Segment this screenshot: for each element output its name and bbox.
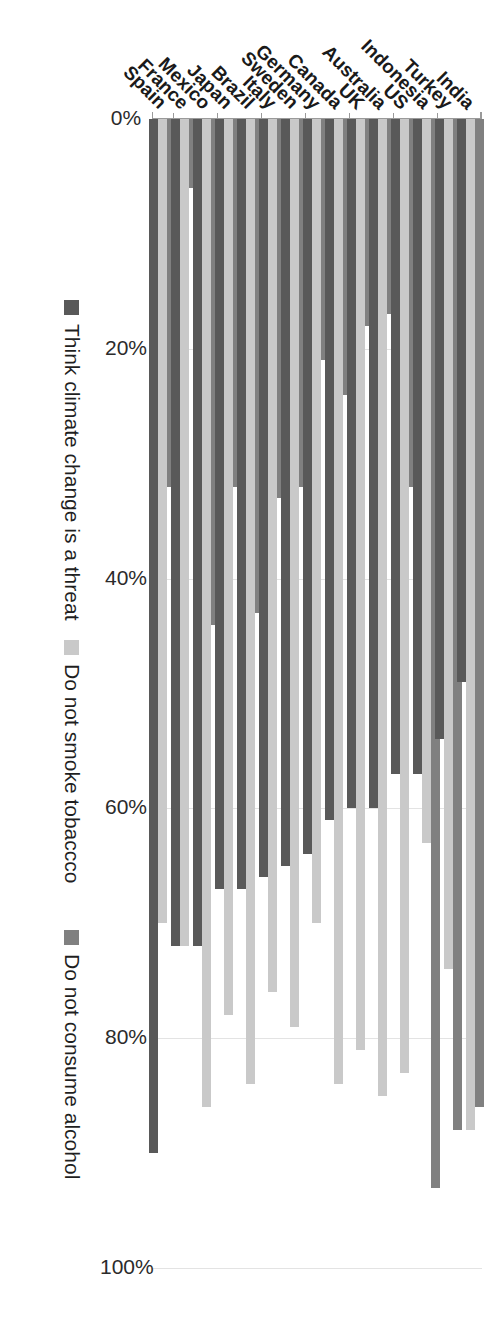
bar-mexico-series-1 xyxy=(203,119,212,1107)
bar-brazil-series-0 xyxy=(238,119,247,889)
bar-canada-series-0 xyxy=(326,119,335,820)
bar-australia-series-0 xyxy=(370,119,379,808)
bar-us-series-0 xyxy=(392,119,401,774)
bar-india-series-2 xyxy=(476,119,485,1107)
rotated-chart-wrapper: SpainFranceMexicoJapanBrazilItalySwedenG… xyxy=(0,0,496,1339)
series-2-swatch xyxy=(65,930,80,945)
bar-turkey-series-1 xyxy=(445,119,454,969)
plot-area xyxy=(152,118,482,1267)
gridline xyxy=(152,1268,482,1269)
bar-japan-series-1 xyxy=(225,119,234,1015)
bar-italy-series-1 xyxy=(269,119,278,992)
bar-canada-series-1 xyxy=(335,119,344,1084)
bar-indonesia-series-1 xyxy=(423,119,432,843)
bar-spain-series-0 xyxy=(150,119,159,1153)
bar-sweden-series-1 xyxy=(291,119,300,1027)
bar-us-series-1 xyxy=(401,119,410,1073)
bar-uk-series-1 xyxy=(357,119,366,1050)
legend-item-0[interactable]: Think climate change is a threat xyxy=(60,300,84,620)
legend-item-2[interactable]: Do not consume alcohol xyxy=(60,930,84,1179)
x-tick-label-60pct: 60% xyxy=(100,795,152,819)
bar-sweden-series-0 xyxy=(282,119,291,866)
bar-uk-series-0 xyxy=(348,119,357,808)
x-tick-label-0pct: 0% xyxy=(100,106,152,130)
bar-italy-series-0 xyxy=(260,119,269,877)
legend-label-2: Do not consume alcohol xyxy=(60,954,84,1179)
legend-label-1: Do not smoke tobaccco xyxy=(60,664,84,883)
bar-japan-series-0 xyxy=(216,119,225,889)
x-tick-label-40pct: 40% xyxy=(100,566,152,590)
bar-france-series-1 xyxy=(181,119,190,946)
bar-mexico-series-0 xyxy=(194,119,203,946)
x-tick-label-80pct: 80% xyxy=(100,1025,152,1049)
bar-germany-series-1 xyxy=(313,119,322,923)
x-tick-label-100pct: 100% xyxy=(100,1255,152,1279)
bar-spain-series-1 xyxy=(159,119,168,923)
bar-india-series-1 xyxy=(467,119,476,1130)
legend-item-1[interactable]: Do not smoke tobaccco xyxy=(60,640,84,883)
chart-legend: Think climate change is a threatDo not s… xyxy=(26,0,96,1339)
bar-brazil-series-1 xyxy=(247,119,256,1084)
bar-turkey-series-0 xyxy=(436,119,445,739)
bar-australia-series-1 xyxy=(379,119,388,1096)
category-axis-labels: SpainFranceMexicoJapanBrazilItalySwedenG… xyxy=(136,0,496,118)
bar-germany-series-0 xyxy=(304,119,313,854)
bar-chart: SpainFranceMexicoJapanBrazilItalySwedenG… xyxy=(0,0,496,1339)
series-1-swatch xyxy=(65,640,80,655)
legend-label-0: Think climate change is a threat xyxy=(60,324,84,620)
bar-indonesia-series-0 xyxy=(414,119,423,774)
bar-group xyxy=(458,119,485,1267)
x-tick-label-20pct: 20% xyxy=(100,336,152,360)
bar-france-series-0 xyxy=(172,119,181,946)
bar-india-series-0 xyxy=(458,119,467,682)
series-0-swatch xyxy=(65,300,80,315)
